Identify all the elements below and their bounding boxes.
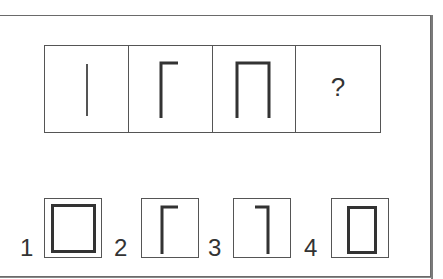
vertical-line-figure-icon: [45, 46, 129, 132]
reverse-gamma-figure-icon: [234, 199, 292, 259]
outer-frame-right-edge: [431, 15, 433, 279]
tall-rectangle-figure-icon: [332, 199, 390, 259]
option-label-4: 4: [304, 236, 317, 260]
square-figure-icon: [45, 199, 103, 259]
pi-figure-icon: [213, 46, 296, 132]
question-mark: ?: [296, 72, 380, 103]
outer-frame-bottom-edge: [0, 277, 432, 278]
sequence-cell-2: [129, 46, 213, 132]
option-1[interactable]: [44, 198, 102, 258]
sequence-cell-1: [45, 46, 129, 132]
option-2[interactable]: [141, 198, 199, 258]
option-3[interactable]: [233, 198, 291, 258]
option-4[interactable]: [331, 198, 389, 258]
sequence-cell-4: ?: [296, 46, 380, 132]
option-label-2: 2: [114, 236, 127, 260]
option-label-3: 3: [208, 236, 221, 260]
sequence-cell-3: [213, 46, 296, 132]
gamma-figure-icon: [142, 199, 200, 259]
gamma-figure-icon: [129, 46, 213, 132]
option-label-1: 1: [20, 236, 33, 260]
sequence-row: ?: [44, 45, 381, 133]
